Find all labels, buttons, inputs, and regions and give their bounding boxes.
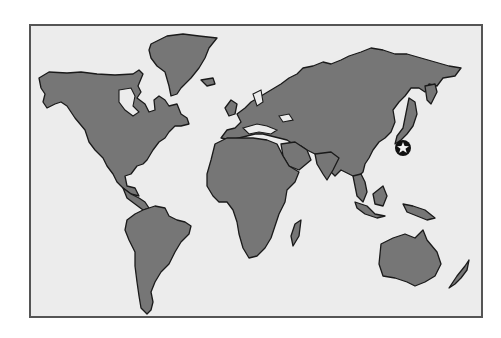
greenland [149, 34, 217, 96]
borneo [373, 186, 387, 206]
world-map [31, 26, 485, 320]
location-marker[interactable] [395, 140, 411, 156]
indochina [353, 174, 367, 202]
north-america [39, 70, 189, 196]
south-america [125, 206, 191, 314]
world-map-frame: Japan [29, 24, 483, 318]
iceland [201, 78, 215, 86]
new-zealand [449, 260, 469, 288]
kamchatka [425, 84, 437, 104]
new-guinea [403, 204, 435, 220]
british-isles [225, 100, 237, 116]
australia [379, 230, 441, 286]
madagascar [291, 220, 301, 246]
japan [395, 98, 417, 144]
